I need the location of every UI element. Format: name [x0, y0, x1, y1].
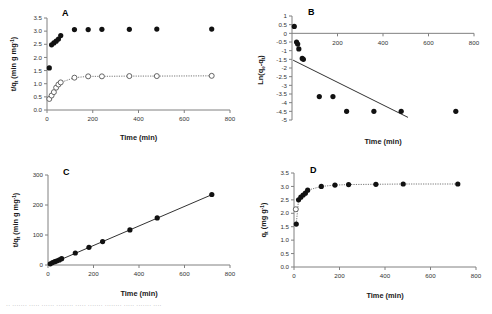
- data-point: [294, 221, 299, 226]
- panel-c-xtick-0: 0: [46, 270, 50, 277]
- panel-b-ytick-1: 0.5: [278, 21, 287, 28]
- data-point: [99, 74, 104, 79]
- data-point: [73, 250, 78, 255]
- panel-b-ytick-5: -1.5: [276, 56, 287, 63]
- data-point: [209, 192, 214, 197]
- panel-a-ytick-4: 2.0: [33, 54, 42, 61]
- data-point: [319, 184, 324, 189]
- panel-c-ylabel: t/qt (min g mg-1): [11, 192, 21, 247]
- data-point: [401, 181, 406, 186]
- data-point: [72, 75, 77, 80]
- data-point: [154, 26, 159, 31]
- panel-b-ytick-4: -1: [281, 47, 287, 54]
- panel-c-letter: C: [63, 167, 70, 177]
- panel-d-xtick-0: 0: [292, 272, 296, 279]
- panel-b-ytick-10: -4: [281, 99, 287, 106]
- panel-a-ytick-5: 2.5: [33, 40, 42, 47]
- panel-c-ytick-3: 300: [33, 171, 44, 178]
- panel-d-xtick-2: 400: [380, 272, 391, 279]
- data-point: [99, 27, 104, 32]
- panel-a-ytick-2: 1.0: [33, 80, 42, 87]
- panel-b-ylabel: Ln(qe-qt): [256, 55, 266, 85]
- panel-b-xtick-1: 400: [378, 39, 389, 46]
- panel-b-xtick-0: 200: [332, 39, 343, 46]
- panel-c-xlabel: Time (min): [120, 289, 158, 298]
- panel-a-ytick-6: 3.0: [33, 27, 42, 34]
- panel-b-ytick-9: -3.5: [276, 90, 287, 97]
- panel-a-letter: A: [62, 8, 69, 18]
- data-point: [86, 27, 91, 32]
- figure-container: 0.0 0.5 1.0 1.5 2.0 2.5 3.0 3.5 0 200 40…: [0, 0, 492, 314]
- panel-d-ytick-0: 0.0: [280, 263, 289, 270]
- panel-d-ytick-3: 1.5: [280, 223, 289, 230]
- data-point: [127, 74, 132, 79]
- data-point: [295, 41, 300, 46]
- panel-a-ytick-3: 1.5: [33, 67, 42, 74]
- panel-b-series-lines: [293, 60, 408, 117]
- data-point: [86, 245, 91, 250]
- panel-c-ytick-2: 200: [33, 201, 44, 208]
- panel-b-ytick-6: -2: [281, 64, 287, 71]
- panel-c-xtick-4: 800: [225, 270, 236, 277]
- data-point: [100, 239, 105, 244]
- data-point: [305, 188, 310, 193]
- panel-b-xtick-2: 600: [423, 39, 434, 46]
- panel-a-plot: 0.0 0.5 1.0 1.5 2.0 2.5 3.0 3.5 0 200 40…: [0, 0, 246, 157]
- panel-a-xtick-4: 800: [225, 115, 236, 122]
- panel-b: 1 0.5 0 -0.5 -1 -1.5 -2 -2.5 -3 -3.5 -4 …: [246, 0, 492, 157]
- panel-b-ytick-11: -4.5: [276, 108, 287, 115]
- panel-a: 0.0 0.5 1.0 1.5 2.0 2.5 3.0 3.5 0 200 40…: [0, 0, 246, 157]
- data-point: [344, 109, 349, 114]
- panel-a-xlabel: Time (min): [120, 133, 158, 142]
- data-point: [346, 182, 351, 187]
- data-point: [127, 227, 132, 232]
- panel-b-ytick-7: -2.5: [276, 73, 287, 80]
- panel-a-series-points: [47, 26, 215, 101]
- data-point: [72, 27, 77, 32]
- trendline: [293, 60, 408, 117]
- data-point: [453, 109, 458, 114]
- panel-c: 0 100 200 300 0 200 400 600 800 Time (mi…: [0, 157, 246, 314]
- data-point: [330, 94, 335, 99]
- panel-c-xtick-1: 200: [88, 270, 99, 277]
- panel-b-letter: B: [308, 7, 315, 17]
- panel-d-xlabel: Time (min): [366, 291, 404, 300]
- panel-d-ytick-1: 0.5: [280, 250, 289, 257]
- panel-c-xtick-3: 600: [179, 270, 190, 277]
- panel-c-plot: 0 100 200 300 0 200 400 600 800 Time (mi…: [0, 157, 246, 314]
- panel-b-plot: 1 0.5 0 -0.5 -1 -1.5 -2 -2.5 -3 -3.5 -4 …: [246, 0, 492, 157]
- data-point: [293, 207, 298, 212]
- panel-a-ytick-0: 0.0: [33, 106, 42, 113]
- panel-b-ytick-0: 1: [284, 12, 288, 19]
- data-point: [296, 46, 301, 51]
- panel-b-ytick-3: -0.5: [276, 38, 287, 45]
- panel-b-ytick-8: -3: [281, 82, 287, 89]
- data-point: [58, 33, 63, 38]
- panel-b-ytick-2: 0: [284, 30, 288, 37]
- panel-d-ytick-7: 3.5: [280, 169, 289, 176]
- data-point: [292, 24, 297, 29]
- series-line-qt-filled: [296, 184, 458, 224]
- panel-d-plot: 0.0 0.5 1.0 1.5 2.0 2.5 3.0 3.5 0 200 40…: [246, 157, 492, 314]
- data-point: [155, 215, 160, 220]
- panel-a-xtick-3: 600: [179, 115, 190, 122]
- data-point: [47, 65, 52, 70]
- data-point: [455, 181, 460, 186]
- panel-d-series-points: [293, 181, 460, 226]
- panel-b-series-points: [292, 24, 459, 114]
- data-point: [86, 74, 91, 79]
- data-point: [209, 73, 214, 78]
- panel-a-ytick-1: 0.5: [33, 93, 42, 100]
- data-point: [58, 80, 63, 85]
- panel-d-series-lines: [296, 184, 458, 224]
- data-point: [209, 26, 214, 31]
- data-point: [59, 256, 64, 261]
- panel-d-ytick-2: 1.0: [280, 236, 289, 243]
- panel-d: 0.0 0.5 1.0 1.5 2.0 2.5 3.0 3.5 0 200 40…: [246, 157, 492, 314]
- data-point: [371, 109, 376, 114]
- data-point: [317, 94, 322, 99]
- panel-d-xtick-3: 600: [425, 272, 436, 279]
- panel-a-xtick-0: 0: [45, 115, 49, 122]
- panel-b-xtick-3: 800: [469, 39, 480, 46]
- panel-a-xtick-2: 400: [133, 115, 144, 122]
